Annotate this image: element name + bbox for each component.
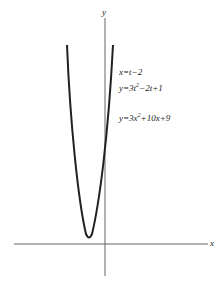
- x-axis-label: x: [210, 239, 214, 248]
- y-axis-label: y: [102, 8, 106, 17]
- equation-x-param: x=t−2: [119, 68, 142, 77]
- eq3-part-b: +10x+9: [141, 113, 171, 123]
- eq2-part-a: y=3t: [119, 83, 136, 93]
- equation-y-param: y=3t2−2t+1: [119, 84, 163, 93]
- eq3-part-a: y=3x: [119, 113, 138, 123]
- plot-canvas: [0, 0, 223, 292]
- parabola-curve: [67, 45, 113, 238]
- equation-cartesian: y=3x2+10x+9: [119, 114, 170, 123]
- eq2-part-b: −2t+1: [139, 83, 163, 93]
